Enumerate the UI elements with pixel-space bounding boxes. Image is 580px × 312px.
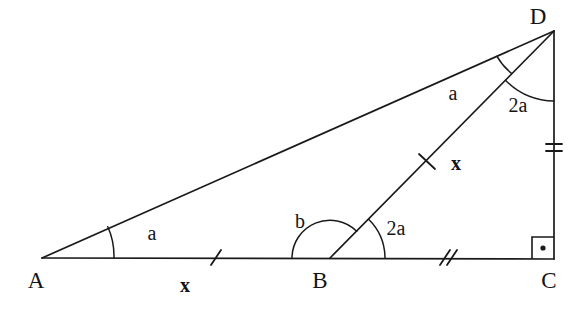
segment-AC [42,258,554,259]
angle-arcs [108,56,554,258]
vertex-label-C: C [541,268,556,293]
segment-BD [330,31,554,258]
vertex-labels: A B C D [28,4,557,293]
tick-mark-BD [419,154,435,169]
angle-label-DBC: 2a [387,217,406,239]
angle-label-BDC: 2a [509,94,528,116]
vertex-label-A: A [28,268,45,293]
tick-marks [211,144,562,265]
angle-labels: a b 2a a 2a [148,82,528,244]
geometry-canvas: A B C D a b 2a a 2a x x [0,0,580,312]
angle-label-ADB: a [449,82,458,104]
side-label-AB: x [180,274,190,296]
angle-arc-ADB [497,56,511,73]
angle-label-ABD: b [295,210,305,232]
right-angle-C [532,237,554,259]
vertex-label-B: B [312,268,327,293]
side-label-BD: x [451,152,461,174]
angle-arc-A [108,227,114,258]
right-angle-dot-icon [540,245,545,250]
angle-label-A: a [148,222,157,244]
vertex-label-D: D [530,4,547,29]
geometry-diagram: A B C D a b 2a a 2a x x [0,0,580,312]
angle-arc-DBC [369,219,385,258]
